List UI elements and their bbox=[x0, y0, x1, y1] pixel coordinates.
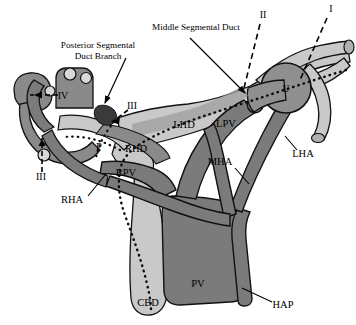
marker-label-II: II bbox=[260, 9, 267, 20]
structure-label-u: U bbox=[283, 84, 290, 94]
marker-label-III-lower: III bbox=[36, 171, 46, 182]
structure-label-p: P bbox=[96, 141, 102, 152]
duct-open-end-lower-right bbox=[312, 134, 325, 143]
structure-label-rha: RHA bbox=[61, 194, 84, 205]
duct-orifice-2 bbox=[81, 73, 92, 84]
leader-posterior-segmental-duct-branch bbox=[105, 58, 126, 103]
marker-label-IV: IV bbox=[58, 90, 69, 101]
structure-label-lhd: LHD bbox=[173, 119, 195, 130]
structure-label-cbd: CBD bbox=[137, 297, 159, 308]
anatomy-diagram: Posterior Segmental Duct Branch Middle S… bbox=[0, 0, 356, 325]
structure-label-lpv: LPV bbox=[216, 118, 236, 129]
marker-label-I: I bbox=[329, 3, 332, 14]
structure-label-lha: LHA bbox=[292, 148, 314, 159]
diagram-canvas: Posterior Segmental Duct Branch Middle S… bbox=[0, 0, 356, 325]
marker-label-III-upper: III bbox=[127, 100, 137, 111]
callout-posterior-segmental-duct-branch-line1: Posterior Segmental bbox=[61, 40, 136, 50]
structure-label-mha: MHA bbox=[208, 156, 233, 167]
structure-label-pv: PV bbox=[191, 278, 205, 289]
duct-open-end-top-right bbox=[344, 40, 354, 54]
structure-label-hap: HAP bbox=[272, 299, 293, 310]
duct-orifice-1 bbox=[64, 68, 76, 80]
structure-label-rhd: RHD bbox=[125, 143, 148, 154]
callout-posterior-segmental-duct-branch-line2: Duct Branch bbox=[75, 51, 122, 61]
structure-label-rpv: RPV bbox=[116, 167, 137, 178]
leader-middle-segmental-duct bbox=[190, 38, 245, 93]
callout-middle-segmental-duct: Middle Segmental Duct bbox=[152, 22, 240, 32]
duct-orifice-5 bbox=[38, 149, 50, 161]
